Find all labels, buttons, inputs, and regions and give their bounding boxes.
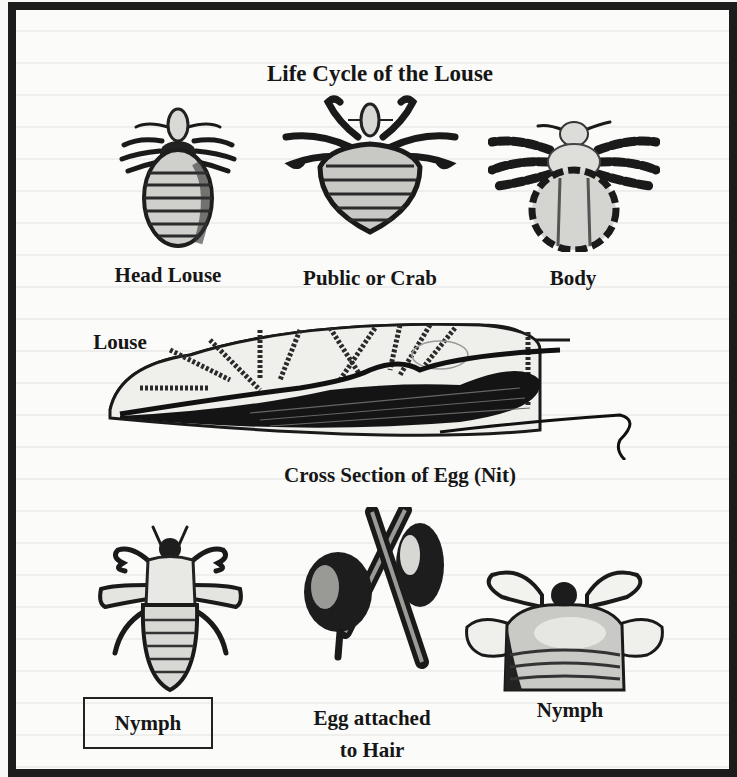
nymph-crab-illustration [462, 555, 667, 695]
nymph-illustration [93, 525, 248, 695]
label-to-hair: to Hair [340, 740, 405, 761]
head-louse-illustration [118, 103, 238, 248]
egg-on-hair-illustration [300, 507, 445, 677]
body-louse-illustration [488, 112, 660, 252]
label-nymph-right: Nymph [537, 700, 604, 721]
label-crab-louse: Public or Crab [303, 268, 437, 289]
label-egg-cross-section: Cross Section of Egg (Nit) [284, 465, 516, 486]
label-body-louse: Body [550, 268, 597, 289]
label-egg-attached: Egg attached [313, 708, 430, 729]
figure-title: Life Cycle of the Louse [267, 62, 493, 85]
egg-cross-section-illustration [100, 310, 635, 460]
label-head-louse: Head Louse [115, 265, 222, 286]
label-nymph-boxed: Nymph [83, 697, 213, 749]
crab-louse-illustration [278, 92, 463, 237]
